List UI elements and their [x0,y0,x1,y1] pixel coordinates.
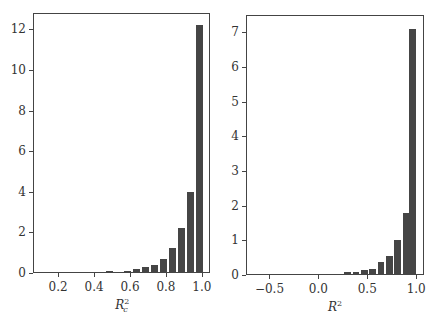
histogram-bar [378,262,385,275]
histogram-bar [169,248,176,273]
y-tick [29,70,33,71]
y-tick-label: 2 [18,225,26,239]
plot-area [246,15,424,275]
y-tick [242,206,246,207]
x-tick-label: −0.5 [255,282,284,296]
x-tick-label: 0.2 [49,280,68,294]
histogram-bar [115,272,122,273]
histogram-bar [369,269,376,275]
histogram-bar [409,29,416,275]
y-tick [242,275,246,276]
histogram-bar [151,265,158,273]
x-tick-label: 0.6 [120,280,139,294]
x-tick-label: 0.0 [309,282,328,296]
y-tick [29,29,33,30]
histogram-bar [328,274,335,275]
histogram-bar [142,267,149,273]
y-tick [242,240,246,241]
histogram-bar [187,192,194,273]
x-axis-label: R2 [328,299,342,314]
y-tick-label: 0 [18,266,26,280]
histogram-bar [196,25,203,273]
y-tick [242,67,246,68]
y-tick-label: 6 [231,60,239,74]
x-tick [269,275,270,279]
histogram-bar [97,272,104,273]
y-tick-label: 4 [231,129,239,143]
x-tick [58,273,59,277]
y-tick-label: 12 [11,22,26,36]
x-tick-label: 0.5 [358,282,377,296]
y-tick [29,111,33,112]
x-tick [416,275,417,279]
histogram-bar [106,271,113,273]
histogram-bar [394,240,401,275]
x-tick [94,273,95,277]
histogram-bar [133,269,140,273]
histogram-bar [336,274,343,275]
x-tick-label: 0.8 [156,280,175,294]
y-tick [29,151,33,152]
histogram-bar [160,259,167,273]
histogram-bar [353,272,360,275]
y-tick-label: 0 [231,268,239,282]
y-tick [29,273,33,274]
y-tick-label: 6 [18,144,26,158]
x-tick [367,275,368,279]
histogram-bar [319,274,326,275]
y-tick [242,136,246,137]
y-tick [29,192,33,193]
y-tick-label: 10 [11,63,26,77]
y-tick-label: 1 [231,233,239,247]
y-tick-label: 4 [18,185,26,199]
y-tick [242,102,246,103]
y-tick [242,32,246,33]
histogram-bar [178,228,185,273]
x-tick [202,273,203,277]
y-tick [242,171,246,172]
histogram-bar [386,256,393,275]
y-tick-label: 5 [231,95,239,109]
x-tick [166,273,167,277]
x-tick-label: 0.4 [85,280,104,294]
y-tick-label: 3 [231,164,239,178]
x-tick-label: 1.0 [192,280,211,294]
y-tick-label: 7 [231,25,239,39]
y-tick [29,232,33,233]
histogram-bar [311,274,318,275]
y-tick-label: 8 [18,104,26,118]
histogram-bar [344,272,351,275]
x-tick-label: 1.0 [407,282,426,296]
x-tick [130,273,131,277]
x-tick [318,275,319,279]
y-tick-label: 2 [231,199,239,213]
x-axis-label: R2c [115,297,128,314]
